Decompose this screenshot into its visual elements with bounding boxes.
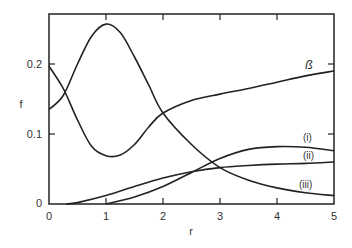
curve-1 xyxy=(49,66,334,157)
plot-frame xyxy=(49,14,334,204)
ytick-0: 0 xyxy=(36,197,42,209)
xtick-3: 3 xyxy=(217,210,223,222)
curve-ii-label: (ii) xyxy=(303,150,314,161)
xtick-1: 1 xyxy=(103,210,109,222)
xtick-2: 2 xyxy=(160,210,166,222)
xtick-0: 0 xyxy=(46,210,52,222)
curve-i-label: (i) xyxy=(303,132,312,143)
xtick-4: 4 xyxy=(274,210,280,222)
chart: 0 0.1 0.2 0 1 2 3 4 5 r f ß (i) (ii) (ii… xyxy=(0,0,352,248)
y-axis-label: f xyxy=(19,98,23,110)
ytick-0.1: 0.1 xyxy=(27,128,42,140)
curve-0 xyxy=(49,24,334,196)
curve-iii-label: (iii) xyxy=(299,179,312,190)
axis-ticks xyxy=(49,14,334,204)
xtick-5: 5 xyxy=(331,210,337,222)
ytick-0.2: 0.2 xyxy=(27,58,42,70)
curves xyxy=(49,24,334,204)
beta-label: ß xyxy=(305,57,313,72)
curve-2 xyxy=(106,146,334,204)
x-axis-label: r xyxy=(189,225,193,237)
